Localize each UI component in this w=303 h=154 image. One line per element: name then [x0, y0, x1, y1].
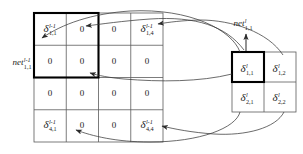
figure-vector-layer [0, 0, 303, 154]
backprop-delta-figure: δl-11,1 0 0 δl-11,4 0 0 0 0 0 0 0 0 δl-1… [0, 0, 303, 154]
right-grid-highlight-cell [232, 52, 264, 82]
